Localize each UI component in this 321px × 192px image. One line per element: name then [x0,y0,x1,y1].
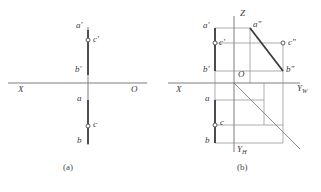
panel-a-label-c-prime: c' [93,35,99,44]
panel-a-label-c: c [93,120,97,129]
panel-b-profile-projection-segment [250,28,283,71]
panel-a-label-a: a [77,94,82,103]
panel-a-label-b-prime: b' [75,65,81,74]
panel-b-label-c: c [220,118,224,127]
panel-b-origin-label: O [238,70,245,79]
panel-a-point-marker-c-prime [86,38,90,42]
panel-a-geometry [8,27,147,145]
panel-a-label-a-prime: a' [76,21,82,30]
panel-b-label-b-double-prime: b" [286,65,294,74]
panel-b-point-marker-c-double-prime [281,41,285,45]
panel-b-yh-axis-label: YH [237,145,247,156]
panel-a-origin-label: O [131,85,138,94]
panel-a-point-marker-c [86,124,90,128]
panel-b-label-c-double-prime: c" [288,38,296,47]
panel-b-bisector-line [234,83,300,149]
panel-b-label-a-double-prime: a" [253,20,261,29]
panel-b-geometry [168,16,300,152]
panel-b-caption: (b) [237,162,248,172]
panel-b-label-c-prime: c' [219,38,225,47]
panel-b-z-axis-label: Z [240,9,245,18]
panel-b-label-a-prime: a' [203,21,209,30]
panel-a-label-b: b [77,136,82,145]
panel-b-point-marker-c-prime [213,41,217,45]
panel-b-yw-axis-subscript: W [302,87,307,94]
descriptive-geometry-figure: X O a' c' b' a c b (a) X O Z YW YH a' a"… [0,0,321,192]
panel-a-x-axis-label: X [18,85,24,94]
panel-b-x-axis-label: X [176,85,182,94]
panel-b-label-b: b [205,136,210,145]
panel-b-point-marker-c [213,123,217,127]
panel-a-caption: (a) [63,162,73,172]
panel-b-label-a: a [205,94,210,103]
figure-vector-canvas [0,0,321,192]
panel-b-yw-axis-label: YW [297,84,307,95]
panel-b-yh-axis-subscript: H [242,148,247,155]
panel-b-label-b-prime: b' [203,65,209,74]
